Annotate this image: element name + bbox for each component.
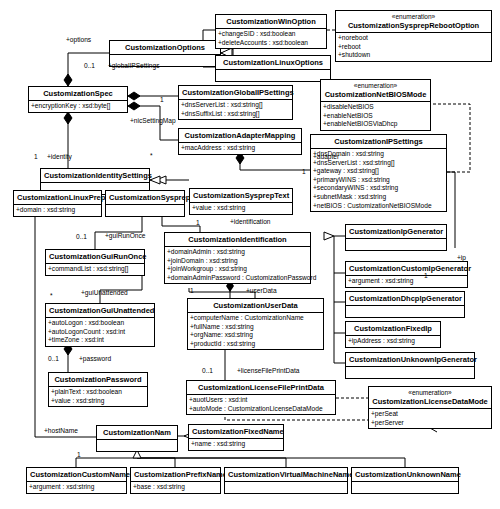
class-attributes-password: +plainText : xsd:boolean+value : xsd:str… xyxy=(49,386,147,406)
class-box-password[interactable]: CustomizationPassword+plainText : xsd:bo… xyxy=(48,372,148,407)
class-attribute: +enableNetBIOSViaDhcp xyxy=(323,120,429,129)
class-attribute: +macAddress : xsd:string xyxy=(181,144,300,153)
class-attributes-ipgenerator xyxy=(346,238,446,250)
class-attribute: +value : xsd:string xyxy=(51,397,146,406)
class-attributes-globalip: +dnsServerList : xsd:string[]+dnsSuffixL… xyxy=(179,99,292,119)
class-box-userdata[interactable]: CustomizationUserData+computerName : Cus… xyxy=(187,298,324,350)
class-box-ipgenerator[interactable]: CustomizationIpGenerator xyxy=(345,224,447,251)
class-title-ipgenerator: CustomizationIpGenerator xyxy=(346,225,446,238)
class-name-globalip: CustomizationGlobalIPSettings xyxy=(182,88,294,97)
class-attribute: +autoLogon : xsd:boolean xyxy=(48,319,153,328)
class-attribute: +primaryWINS : xsd:string xyxy=(313,176,445,185)
class-box-guirunonce[interactable]: CustomizationGuiRunOnce+commandList : xs… xyxy=(45,249,145,276)
class-box-spec[interactable]: CustomizationSpec+encryptionKey : xsd:by… xyxy=(28,86,128,113)
class-attribute: +computerName : CustomizationName xyxy=(190,314,322,323)
class-name-spec: CustomizationSpec xyxy=(43,89,113,98)
class-attribute: +joinDomain : xsd:string xyxy=(167,257,309,266)
class-box-winoption[interactable]: CustomizationWinOption+changeSID : xsd:b… xyxy=(215,14,327,49)
edge-label: 1 xyxy=(34,153,38,161)
edge-label: +identity xyxy=(47,153,72,161)
class-title-userdata: CustomizationUserData xyxy=(188,299,323,312)
class-attributes-identification: +domainAdmin : xsd:string+joinDomain : x… xyxy=(165,246,310,283)
class-attribute: +perServer xyxy=(371,419,490,428)
class-attributes-netbiosmode: +disableNetBIOS+enableNetBIOS+enableNetB… xyxy=(321,101,430,130)
edge-label: +nicSettingMap xyxy=(130,117,176,125)
class-attributes-fixedip: +ipAddress : xsd:string xyxy=(346,335,440,347)
class-attributes-linuxprep: +domain : xsd:string xyxy=(14,204,101,216)
class-box-guiunattended[interactable]: CustomizationGuiUnattended+autoLogon : x… xyxy=(45,303,155,347)
class-attributes-licensemode: +perSeat+perServer xyxy=(369,408,491,428)
class-attribute: +productId : xsd:string xyxy=(190,340,322,349)
edge-label: * xyxy=(150,152,153,160)
edge-label: 0..1 xyxy=(202,367,213,375)
class-name-winoption: CustomizationWinOption xyxy=(226,17,316,26)
edge-label: +globalIPSettings xyxy=(108,62,160,70)
class-name-netbiosmode: CustomizationNetBIOSMode xyxy=(325,90,427,99)
class-attribute: +joinWorkgroup : xsd:string xyxy=(167,265,309,274)
class-stereotype-netbiosmode: «enumeration» xyxy=(324,82,427,90)
class-title-customname: CustomizationCustomName xyxy=(27,468,126,481)
class-box-linuxoptions[interactable]: CustomizationLinuxOptions xyxy=(215,55,331,82)
class-box-netbiosmode[interactable]: «enumeration»CustomizationNetBIOSMode+di… xyxy=(320,79,431,131)
class-title-sysprepetext: CustomizationSysprepText xyxy=(190,189,292,202)
class-name-ipsettings: CustomizationIPSettings xyxy=(334,137,422,146)
class-attributes-customip: +argument : xsd:string xyxy=(346,275,467,287)
class-box-linuxprep[interactable]: CustomizationLinuxPrep+domain : xsd:stri… xyxy=(13,190,102,217)
class-attribute: +encryptionKey : xsd:byte[] xyxy=(31,102,126,111)
class-attribute: +orgName: xsd:string xyxy=(190,331,322,340)
edge-label: 1 xyxy=(424,272,428,280)
class-name-customip: CustomizationCustomIpGenerator xyxy=(349,264,471,273)
class-attribute: +shutdown xyxy=(338,51,490,60)
class-name-dhcpip: CustomizationDhcpIpGenerator xyxy=(349,294,462,303)
class-name-nam: CustomizationNam xyxy=(103,428,171,437)
class-box-unknownip[interactable]: CustomizationUnknownIpGenerator xyxy=(345,352,475,379)
class-attributes-unknownip xyxy=(346,366,474,378)
class-attributes-linuxoptions xyxy=(216,69,330,81)
class-box-prefixname[interactable]: CustomizationPrefixName+base : xsd:strin… xyxy=(130,467,221,494)
class-attributes-sysprep xyxy=(106,204,184,216)
class-box-ipsettings[interactable]: CustomizationIPSettings+dnsDomain : xsd:… xyxy=(310,134,447,212)
class-title-sysprep: CustomizationSysprep xyxy=(106,191,184,204)
class-box-dhcpip[interactable]: CustomizationDhcpIpGenerator xyxy=(345,291,465,318)
class-title-licensemode: «enumeration»CustomizationLicenseDataMod… xyxy=(369,387,491,408)
class-name-adapter: CustomizationAdapterMapping xyxy=(185,131,296,140)
class-stereotype-rebootopt: «enumeration» xyxy=(339,13,488,21)
class-box-rebootopt[interactable]: «enumeration»CustomizationSysprepRebootO… xyxy=(335,10,492,62)
class-name-fixedname: CustomizationFixedName xyxy=(192,427,284,436)
edge-label: 1 xyxy=(196,219,200,227)
class-box-licensefile[interactable]: CustomizationLicenseFilePrintData+auotUs… xyxy=(186,380,336,415)
class-name-licensefile: CustomizationLicenseFilePrintData xyxy=(198,383,324,392)
class-attribute: +changeSID : xsd:boolean xyxy=(218,30,325,39)
class-box-sysprep[interactable]: CustomizationSysprep xyxy=(105,190,185,217)
class-attributes-winoption: +changeSID : xsd:boolean+deleteAccounts … xyxy=(216,28,326,48)
class-box-nam[interactable]: CustomizationNam xyxy=(96,425,178,452)
class-box-adapter[interactable]: CustomizationAdapterMapping+macAddress :… xyxy=(178,128,302,155)
class-title-globalip: CustomizationGlobalIPSettings xyxy=(179,86,292,99)
class-title-customip: CustomizationCustomIpGenerator xyxy=(346,262,467,275)
class-title-unknownip: CustomizationUnknownIpGenerator xyxy=(346,353,474,366)
class-box-fixedip[interactable]: CustomizationFixedIp+ipAddress : xsd:str… xyxy=(345,321,441,348)
class-title-adapter: CustomizationAdapterMapping xyxy=(179,129,301,142)
class-attribute: +disableNetBIOS xyxy=(323,103,429,112)
class-title-identification: CustomizationIdentification xyxy=(165,233,310,246)
class-attribute: +enableNetBIOS xyxy=(323,112,429,121)
class-box-sysprepetext[interactable]: CustomizationSysprepText+value : xsd:str… xyxy=(189,188,293,215)
class-box-customname[interactable]: CustomizationCustomName+argument : xsd:s… xyxy=(26,467,127,494)
class-box-customip[interactable]: CustomizationCustomIpGenerator+argument … xyxy=(345,261,468,288)
class-title-linuxoptions: CustomizationLinuxOptions xyxy=(216,56,330,69)
class-box-vmname[interactable]: CustomizationVirtualMachineName xyxy=(224,467,348,494)
class-box-licensemode[interactable]: «enumeration»CustomizationLicenseDataMod… xyxy=(368,386,492,429)
class-attribute: +gateway : xsd:string[] xyxy=(313,167,445,176)
class-box-fixedname[interactable]: CustomizationFixedName+name : xsd:string xyxy=(188,424,284,451)
class-name-licensemode: CustomizationLicenseDataMode xyxy=(372,397,487,406)
class-attribute: +domain : xsd:string xyxy=(16,206,100,215)
class-box-globalip[interactable]: CustomizationGlobalIPSettings+dnsServerL… xyxy=(178,85,293,120)
class-box-identification[interactable]: CustomizationIdentification+domainAdmin … xyxy=(164,232,311,284)
class-box-unknownname[interactable]: CustomizationUnknownName xyxy=(351,467,459,494)
class-title-fixedname: CustomizationFixedName xyxy=(189,425,283,438)
class-name-linuxoptions: CustomizationLinuxOptions xyxy=(223,58,323,67)
class-attribute: +ipAddress : xsd:string xyxy=(348,337,439,346)
class-title-nam: CustomizationNam xyxy=(97,426,177,439)
edge-label: +options xyxy=(66,36,91,44)
edge-label: 1 xyxy=(190,287,194,295)
